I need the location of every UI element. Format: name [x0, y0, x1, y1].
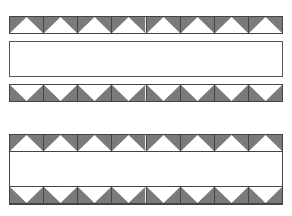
triangle-tile-up	[112, 17, 146, 33]
triangle-tile-down	[112, 85, 146, 101]
triangle-tile-down	[147, 187, 181, 203]
triangle-tile-up	[181, 17, 215, 33]
triangle-tile-down	[215, 85, 249, 101]
top-triangle-strip-1	[9, 16, 283, 34]
triangle-tile-up	[215, 135, 249, 151]
triangle-tile-down	[147, 85, 181, 101]
triangle-tile-down	[10, 187, 44, 203]
triangle-tile-up	[215, 17, 249, 33]
bottom-triangle-strip-1	[9, 84, 283, 102]
top-triangle-strip-2	[9, 134, 283, 152]
triangle-tile-up	[147, 17, 181, 33]
triangle-tile-down	[181, 187, 215, 203]
triangle-tile-up	[249, 135, 282, 151]
empty-center-box	[9, 41, 283, 77]
triangle-tile-up	[181, 135, 215, 151]
triangle-tile-down	[249, 187, 282, 203]
triangle-tile-up	[44, 135, 78, 151]
triangle-tile-down	[112, 187, 146, 203]
triangle-tile-down	[249, 85, 282, 101]
triangle-tile-down	[78, 85, 112, 101]
triangle-tile-down	[44, 85, 78, 101]
triangle-tile-up	[147, 135, 181, 151]
triangle-tile-up	[249, 17, 282, 33]
triangle-tile-up	[78, 17, 112, 33]
bottom-triangle-strip-2	[9, 186, 283, 204]
triangle-tile-up	[10, 17, 44, 33]
triangle-tile-down	[44, 187, 78, 203]
triangle-tile-up	[10, 135, 44, 151]
triangle-tile-up	[44, 17, 78, 33]
triangle-tile-down	[181, 85, 215, 101]
triangle-tile-down	[10, 85, 44, 101]
triangle-tile-up	[112, 135, 146, 151]
triangle-tile-up	[78, 135, 112, 151]
joined-border-assembly	[9, 134, 283, 205]
triangle-tile-down	[78, 187, 112, 203]
triangle-tile-down	[215, 187, 249, 203]
